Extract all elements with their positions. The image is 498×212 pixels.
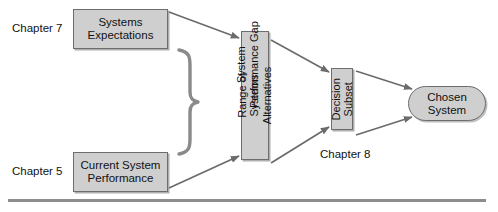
node-systems-expectations: Systems Expectations (73, 9, 168, 49)
node-decision-subset-label: Decision Subset (330, 78, 355, 120)
label-chapter-8: Chapter 8 (320, 148, 371, 160)
connector-decision-to-chosen-upper (356, 71, 412, 89)
curly-brace-icon (179, 50, 198, 154)
connector-range-to-decision-upper (271, 40, 329, 72)
connector-performance-to-range (169, 156, 239, 188)
node-decision-subset: Decision Subset (331, 68, 353, 130)
label-chapter-7: Chapter 7 (12, 22, 63, 34)
node-current-system-performance: Current System Performance (73, 152, 168, 192)
label-chapter-5: Chapter 5 (12, 165, 63, 177)
diagram-canvas: Systems Expectations Current System Perf… (0, 0, 498, 212)
node-systems-expectations-label: Systems Expectations (88, 16, 154, 42)
node-chosen-system: Chosen System (408, 86, 486, 121)
bottom-divider (8, 199, 486, 202)
node-current-system-performance-label: Current System Performance (81, 159, 161, 185)
node-chosen-system-label: Chosen System (427, 91, 467, 117)
connector-expectations-to-range (169, 12, 239, 38)
label-system-performance-gap: System Performance Gap (235, 13, 260, 117)
connector-decision-to-chosen-lower (356, 117, 412, 135)
